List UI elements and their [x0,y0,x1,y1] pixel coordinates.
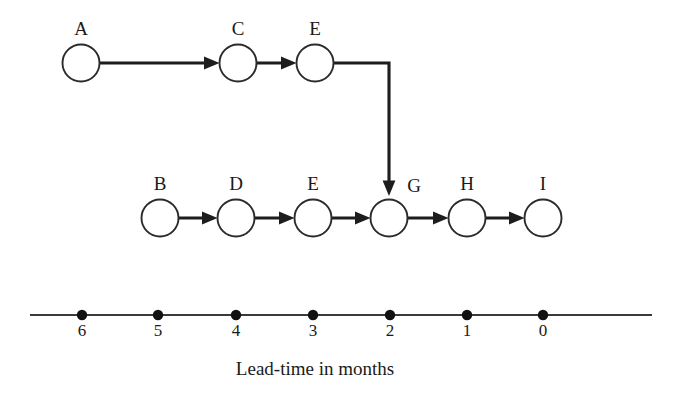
edge-e-top-to-g [334,63,396,196]
node-c[interactable] [220,45,257,82]
axis-tick-dot-5 [153,310,163,320]
node-a[interactable] [63,45,100,82]
edge-b-to-d [179,212,218,225]
node-label-d: D [229,173,243,194]
axis-tick-dot-6 [77,310,87,320]
lead-time-axis: 6 5 4 3 2 1 0 Lead-time in months [30,310,652,379]
edge-b-to-d-arrowhead [202,212,218,225]
node-g[interactable] [371,200,408,237]
edge-d-to-e-bottom [255,212,295,225]
edge-e-top-to-g-path [334,63,390,191]
edge-c-to-e-top [257,57,297,70]
axis-tick-dot-2 [385,310,395,320]
axis-tick-label-6: 6 [78,321,87,340]
edge-a-to-c-arrowhead [204,57,220,70]
node-i[interactable] [525,200,562,237]
node-label-b: B [154,173,167,194]
node-label-g: G [407,175,421,196]
node-label-i: I [540,173,546,194]
edge-c-to-e-top-arrowhead [281,57,297,70]
axis-tick-label-4: 4 [232,321,241,340]
edge-e-bottom-to-g [332,212,371,225]
node-label-h: H [460,173,474,194]
axis-tick-dot-3 [308,310,318,320]
node-e-top[interactable] [297,45,334,82]
node-label-e-bottom: E [307,173,319,194]
precedence-network-diagram: A C E B D E G H I 6 5 4 3 2 1 0 Lead-tim… [0,0,684,395]
axis-tick-label-2: 2 [386,321,395,340]
axis-tick-dot-4 [231,310,241,320]
node-label-a: A [74,18,88,39]
node-h[interactable] [449,200,486,237]
edge-h-to-i [486,212,525,225]
node-d[interactable] [218,200,255,237]
axis-tick-label-3: 3 [309,321,318,340]
node-label-e-top: E [309,18,321,39]
axis-tick-dot-0 [538,310,548,320]
axis-tick-label-0: 0 [539,321,548,340]
edge-a-to-c [100,57,220,70]
axis-tick-dot-1 [462,310,472,320]
axis-tick-label-5: 5 [154,321,163,340]
edge-g-to-h [408,212,449,225]
edge-g-to-h-arrowhead [433,212,449,225]
node-b[interactable] [142,200,179,237]
edge-d-to-e-bottom-arrowhead [279,212,295,225]
edge-e-top-to-g-arrowhead [383,181,396,197]
node-label-c: C [232,18,245,39]
node-e-bottom[interactable] [295,200,332,237]
axis-tick-label-1: 1 [463,321,472,340]
axis-caption: Lead-time in months [236,358,394,379]
diagram-canvas: A C E B D E G H I 6 5 4 3 2 1 0 Lead-tim… [0,0,684,395]
edge-h-to-i-arrowhead [509,212,525,225]
edge-e-bottom-to-g-arrowhead [355,212,371,225]
